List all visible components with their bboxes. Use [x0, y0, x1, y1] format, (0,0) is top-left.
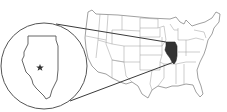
map-canvas [0, 0, 227, 112]
us-map [85, 10, 220, 98]
us-outline [85, 10, 220, 98]
locator-map [0, 0, 227, 112]
